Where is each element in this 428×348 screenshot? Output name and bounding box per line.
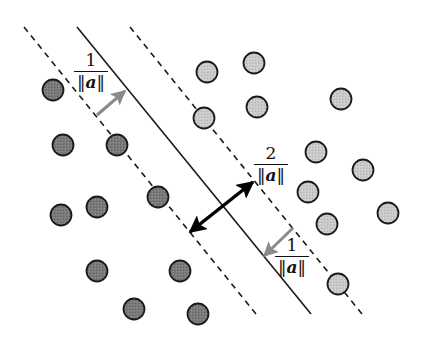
diagram-svg	[0, 0, 428, 348]
label-full-numerator: 2	[254, 145, 288, 162]
margin-left-line	[24, 27, 256, 314]
label-right-numerator: 1	[275, 237, 309, 254]
class-a-point	[87, 197, 108, 218]
svm-diagram: 1 ‖a‖ 2 ‖a‖ 1 ‖a‖	[0, 0, 428, 348]
class-b-point	[317, 214, 338, 235]
class-b-point	[298, 182, 319, 203]
class-b-point	[328, 274, 349, 295]
label-full-margin: 2 ‖a‖	[254, 145, 288, 184]
class-b-point	[197, 62, 218, 83]
class-b-point	[353, 160, 374, 181]
class-a-point	[170, 261, 191, 282]
class-a-point	[87, 261, 108, 282]
label-right-denominator: ‖a‖	[275, 259, 309, 276]
label-left-numerator: 1	[74, 52, 108, 69]
class-a-point	[51, 205, 72, 226]
label-left-denominator: ‖a‖	[74, 74, 108, 91]
class-b-point	[247, 97, 268, 118]
class-b-point	[306, 142, 327, 163]
class-a-point	[53, 135, 74, 156]
class-b-point	[331, 89, 352, 110]
class-a-point	[43, 80, 64, 101]
class-b-point	[194, 108, 215, 129]
label-right-half-margin: 1 ‖a‖	[275, 237, 309, 276]
class-a-point	[188, 304, 209, 325]
class-b-point	[244, 53, 265, 74]
class-a-point	[148, 187, 169, 208]
label-full-denominator: ‖a‖	[254, 167, 288, 184]
left-half-margin-arrow	[97, 91, 125, 115]
margin-width-double-arrow	[190, 182, 253, 232]
points-layer	[43, 53, 399, 325]
class-a-point	[107, 135, 128, 156]
label-left-half-margin: 1 ‖a‖	[74, 52, 108, 91]
class-b-point	[378, 203, 399, 224]
class-a-point	[124, 299, 145, 320]
